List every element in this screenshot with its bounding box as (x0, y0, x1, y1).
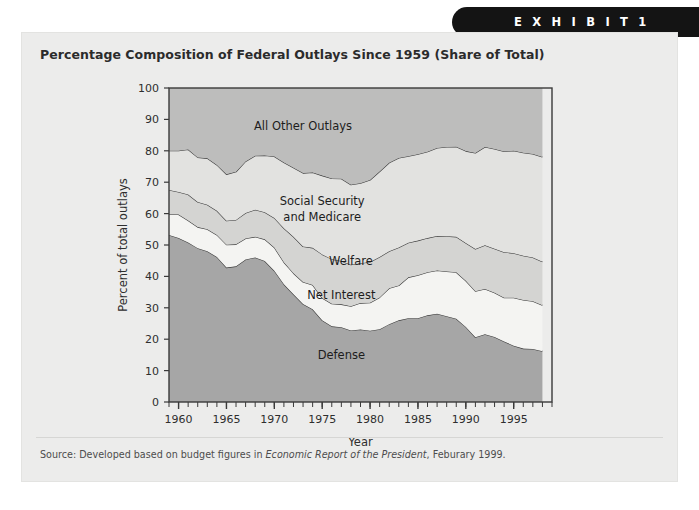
x-tick-label: 1975 (308, 413, 336, 426)
y-tick-label: 60 (145, 208, 159, 221)
source-prefix: Source: Developed based on budget figure… (40, 449, 266, 460)
band-label: Welfare (329, 254, 373, 268)
x-tick-label: 1965 (212, 413, 240, 426)
band-label: All Other Outlays (254, 119, 352, 133)
band-label: Defense (318, 348, 365, 362)
y-tick-label: 70 (145, 176, 159, 189)
y-tick-label: 50 (145, 239, 159, 252)
footer-divider (36, 437, 663, 438)
chart-container: 0102030405060708090100196019651970197519… (22, 33, 677, 481)
x-tick-label: 1995 (500, 413, 528, 426)
band-label: and Medicare (283, 210, 361, 224)
y-tick-label: 90 (145, 113, 159, 126)
y-tick-label: 80 (145, 145, 159, 158)
y-tick-label: 0 (152, 396, 159, 409)
stacked-area-chart: 0102030405060708090100196019651970197519… (22, 33, 677, 481)
y-tick-label: 100 (138, 82, 159, 95)
y-tick-label: 30 (145, 302, 159, 315)
x-tick-label: 1980 (356, 413, 384, 426)
x-tick-label: 1960 (165, 413, 193, 426)
band-label: Net Interest (307, 288, 376, 302)
x-tick-label: 1970 (260, 413, 288, 426)
y-tick-label: 40 (145, 270, 159, 283)
y-tick-label: 20 (145, 333, 159, 346)
band-label: Social Security (280, 194, 365, 208)
source-suffix: , Feburary 1999. (427, 449, 506, 460)
y-axis-title: Percent of total outlays (116, 178, 130, 312)
exhibit-label: E X H I B I T 1 (514, 15, 650, 29)
source-title: Economic Report of the President (266, 449, 427, 460)
y-tick-label: 10 (145, 365, 159, 378)
source-note: Source: Developed based on budget figure… (40, 449, 506, 460)
x-tick-label: 1985 (404, 413, 432, 426)
figure-panel: Percentage Composition of Federal Outlay… (22, 33, 677, 481)
x-tick-label: 1990 (452, 413, 480, 426)
